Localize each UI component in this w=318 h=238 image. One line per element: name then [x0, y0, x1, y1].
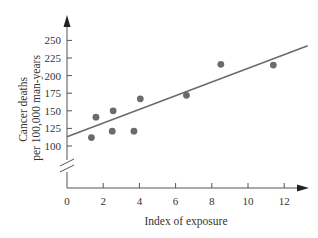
- y-axis-arrow-icon: [64, 15, 71, 27]
- x-tick-label: 0: [64, 195, 70, 207]
- x-tick-label: 10: [243, 195, 255, 207]
- data-point: [110, 107, 117, 114]
- data-point: [131, 128, 138, 135]
- data-point: [109, 128, 116, 135]
- tick-marks: 100125150175200225250024681012: [45, 34, 290, 207]
- x-tick-label: 12: [279, 195, 290, 207]
- data-points: [88, 61, 277, 141]
- y-tick-label: 125: [45, 122, 62, 134]
- y-tick-label: 100: [45, 140, 62, 152]
- x-tick-label: 2: [100, 195, 106, 207]
- y-axis-title-line-1: Cancer deaths: [17, 77, 29, 142]
- data-point: [137, 95, 144, 102]
- regression-line-path: [67, 46, 308, 137]
- y-tick-label: 150: [45, 105, 62, 117]
- scatter-chart: 100125150175200225250024681012 Index of …: [0, 0, 318, 238]
- y-tick-label: 225: [45, 52, 62, 64]
- x-tick-label: 6: [173, 195, 179, 207]
- data-point: [88, 134, 95, 141]
- x-tick-label: 4: [137, 195, 143, 207]
- x-axis-title: Index of exposure: [144, 215, 227, 228]
- x-tick-label: 8: [209, 195, 215, 207]
- axes: [60, 15, 309, 192]
- data-point: [217, 61, 224, 68]
- y-tick-label: 175: [45, 87, 62, 99]
- y-tick-label: 200: [45, 70, 62, 82]
- data-point: [93, 114, 100, 121]
- y-axis-title: Cancer deaths per 100,000 man-years: [17, 55, 43, 161]
- y-axis-title-line-2: per 100,000 man-years: [30, 55, 43, 161]
- x-axis-arrow-icon: [297, 185, 309, 192]
- data-point: [270, 62, 277, 69]
- regression-line: [67, 46, 308, 137]
- y-tick-label: 250: [45, 34, 62, 46]
- data-point: [183, 92, 190, 99]
